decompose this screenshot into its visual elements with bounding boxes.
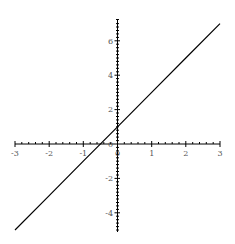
- x-tick-label: 2: [183, 149, 188, 158]
- y-tick-label: 4: [108, 71, 113, 80]
- y-tick-label: 0: [108, 140, 113, 149]
- y-tick-label: -2: [105, 174, 113, 183]
- y-tick-label: 2: [108, 105, 113, 114]
- y-tick-label: -4: [105, 209, 113, 218]
- x-tick-label: -2: [45, 149, 53, 158]
- x-tick-label: -3: [11, 149, 19, 158]
- y-tick-label: 6: [108, 37, 113, 46]
- x-tick-label: 0: [115, 149, 120, 158]
- x-tick-label: 1: [149, 149, 154, 158]
- x-tick-label: -1: [79, 149, 87, 158]
- plot-area: -3 -2 -1 0 1 2 3 6 4 2 0 -2 -4: [0, 0, 235, 244]
- x-tick-label: 3: [217, 149, 222, 158]
